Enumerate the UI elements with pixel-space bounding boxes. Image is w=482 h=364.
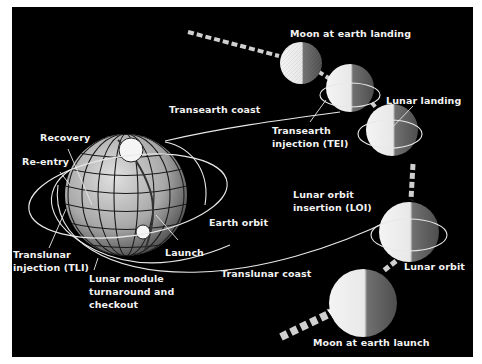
label-recovery: Recovery: [40, 131, 90, 144]
label-lunar-orbit-insertion: Lunar orbit insertion (LOI): [293, 188, 372, 214]
label-launch: Launch: [165, 246, 204, 259]
label-transearth-injection: Transearth injection (TEI): [272, 124, 348, 150]
label-re-entry: Re-entry: [22, 155, 69, 168]
label-earth-orbit: Earth orbit: [209, 216, 268, 229]
label-translunar-coast: Translunar coast: [221, 267, 312, 280]
label-lunar-module-turnaround: Lunar module turnaround and checkout: [89, 272, 174, 311]
moon-earth-landing: [280, 42, 322, 84]
label-moon-at-earth-launch: Moon at earth launch: [313, 336, 430, 349]
moon-loi: [371, 202, 447, 262]
mission-diagram: [0, 0, 482, 364]
label-lunar-orbit: Lunar orbit: [404, 260, 465, 273]
label-translunar-injection: Translunar injection (TLI): [13, 248, 89, 274]
label-moon-at-earth-landing: Moon at earth landing: [290, 27, 411, 40]
label-transearth-coast: Transearth coast: [169, 103, 260, 116]
label-lunar-landing: Lunar landing: [386, 94, 461, 107]
moon-earth-launch: [329, 269, 397, 337]
